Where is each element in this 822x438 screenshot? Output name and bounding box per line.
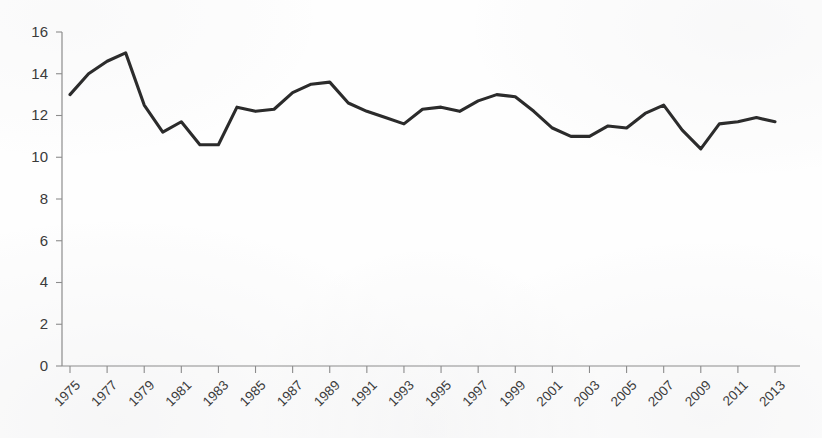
y-axis-ticks xyxy=(56,32,62,366)
y-tick-label: 6 xyxy=(40,232,48,249)
x-tick-label: 1999 xyxy=(497,378,529,410)
x-axis-ticks xyxy=(70,366,775,373)
y-axis-tick-labels: 0246810121416 xyxy=(31,23,48,374)
y-tick-label: 14 xyxy=(31,65,48,82)
x-tick-label: 1979 xyxy=(125,378,157,410)
data-series-group xyxy=(70,53,775,149)
x-tick-label: 1975 xyxy=(51,378,83,410)
x-tick-label: 2005 xyxy=(608,378,640,410)
x-tick-label: 2003 xyxy=(571,378,603,410)
y-tick-label: 16 xyxy=(31,23,48,40)
series-line-1 xyxy=(70,53,775,149)
y-tick-label: 8 xyxy=(40,190,48,207)
y-tick-label: 12 xyxy=(31,106,48,123)
x-tick-label: 1983 xyxy=(200,378,232,410)
x-axis-tick-labels: 1975197719791981198319851987198919911993… xyxy=(51,378,788,410)
x-axis: 1975197719791981198319851987198919911993… xyxy=(51,366,800,409)
x-tick-label: 1977 xyxy=(88,378,120,410)
x-tick-label: 1989 xyxy=(311,378,343,410)
x-tick-label: 1997 xyxy=(459,378,491,410)
chart-canvas: 0246810121416 19751977197919811983198519… xyxy=(0,0,822,438)
x-tick-label: 2001 xyxy=(534,378,566,410)
x-tick-label: 1991 xyxy=(348,378,380,410)
x-tick-label: 1987 xyxy=(274,378,306,410)
x-tick-label: 1981 xyxy=(163,378,195,410)
x-tick-label: 2011 xyxy=(720,378,751,409)
x-tick-label: 1985 xyxy=(237,378,269,410)
y-tick-label: 4 xyxy=(40,273,48,290)
x-tick-label: 2007 xyxy=(645,378,677,410)
x-tick-label: 1993 xyxy=(385,378,417,410)
y-axis: 0246810121416 xyxy=(31,23,62,374)
y-tick-label: 10 xyxy=(31,148,48,165)
y-tick-label: 2 xyxy=(40,315,48,332)
line-chart: 0246810121416 19751977197919811983198519… xyxy=(0,0,822,438)
x-tick-label: 2013 xyxy=(756,378,788,410)
y-tick-label: 0 xyxy=(40,357,48,374)
x-tick-label: 2009 xyxy=(682,378,714,410)
x-tick-label: 1995 xyxy=(422,378,454,410)
